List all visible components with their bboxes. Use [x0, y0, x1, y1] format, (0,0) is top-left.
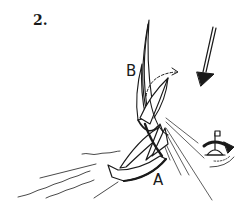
- wake-lines-right: [163, 118, 212, 200]
- label-boat-b: B: [126, 62, 136, 80]
- wind-arrow-icon: [197, 27, 216, 86]
- label-boat-a: A: [153, 171, 163, 189]
- wake-lines-left: [18, 151, 120, 198]
- sailing-diagram: [0, 0, 248, 220]
